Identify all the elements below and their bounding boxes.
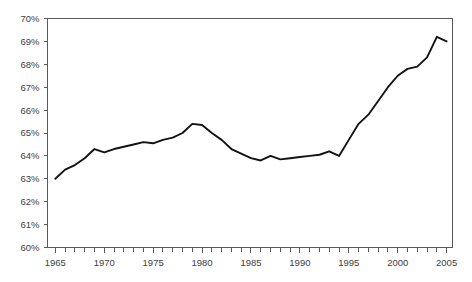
y-tick-label: 66%: [20, 105, 40, 116]
y-tick-label: 65%: [20, 127, 40, 138]
y-tick-label: 60%: [20, 242, 40, 253]
x-tick-label: 2005: [436, 257, 457, 268]
y-tick-label: 64%: [20, 150, 40, 161]
chart-canvas: 70%69%68%67%66%65%64%63%62%61%60% 196519…: [0, 0, 472, 282]
y-tick-label: 67%: [20, 82, 40, 93]
y-tick-label: 62%: [20, 196, 40, 207]
y-tick-label: 63%: [20, 173, 40, 184]
data-line-rate: [55, 37, 446, 179]
x-tick-label: 1990: [289, 257, 310, 268]
y-tick-label: 61%: [20, 219, 40, 230]
x-tick-label: 1970: [94, 257, 115, 268]
y-tick-label: 69%: [20, 36, 40, 47]
x-tick-label: 1985: [240, 257, 261, 268]
x-tick-label: 1965: [45, 257, 66, 268]
x-tick-label: 2000: [387, 257, 408, 268]
x-axis-tick-labels: 196519701975198019851990199520002005: [45, 257, 457, 268]
x-tick-label: 1995: [338, 257, 359, 268]
x-tick-label: 1975: [143, 257, 164, 268]
x-tick-label: 1980: [191, 257, 212, 268]
y-axis-tick-labels: 70%69%68%67%66%65%64%63%62%61%60%: [20, 13, 40, 253]
data-series-group: [55, 37, 446, 179]
y-tick-label: 70%: [20, 13, 40, 24]
line-chart: 70%69%68%67%66%65%64%63%62%61%60% 196519…: [0, 0, 472, 282]
x-axis-ticks: [55, 248, 446, 253]
plot-border: [48, 19, 453, 248]
y-axis-ticks: [44, 19, 48, 248]
plot-area-border: [48, 19, 453, 248]
y-tick-label: 68%: [20, 59, 40, 70]
